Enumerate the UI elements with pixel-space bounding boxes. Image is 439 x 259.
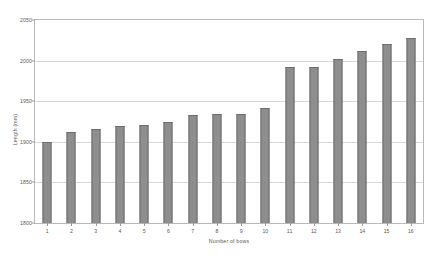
- bar-slot: [375, 20, 399, 223]
- y-tick-label: 1900: [20, 139, 32, 145]
- x-tick-label: 3: [94, 228, 97, 234]
- x-tick-mark: [47, 223, 48, 226]
- x-tick-mark: [144, 223, 145, 226]
- x-tick-label: 13: [335, 228, 341, 234]
- x-tick-label: 14: [359, 228, 365, 234]
- y-tick-label: 1800: [20, 220, 32, 226]
- bar-slot: [84, 20, 108, 223]
- x-tick-mark: [120, 223, 121, 226]
- x-tick-mark: [193, 223, 194, 226]
- bar: [285, 67, 294, 223]
- x-tick-label: 11: [287, 228, 293, 234]
- x-tick-mark: [71, 223, 72, 226]
- bar-slot: [253, 20, 277, 223]
- bar-slot: [350, 20, 374, 223]
- bar-slot: [35, 20, 59, 223]
- x-tick-label: 6: [167, 228, 170, 234]
- x-tick-mark: [387, 223, 388, 226]
- bar-slot: [59, 20, 83, 223]
- y-tick-label: 1950: [20, 98, 32, 104]
- y-tick-label: 2050: [20, 17, 32, 23]
- bar: [382, 44, 391, 223]
- bar: [334, 59, 343, 223]
- x-tick-mark: [411, 223, 412, 226]
- x-tick-label: 8: [215, 228, 218, 234]
- bar: [406, 38, 415, 223]
- x-tick-label: 7: [191, 228, 194, 234]
- x-tick-label: 2: [70, 228, 73, 234]
- bar: [43, 142, 52, 223]
- x-tick-mark: [96, 223, 97, 226]
- x-tick-label: 10: [262, 228, 268, 234]
- x-tick-label: 12: [311, 228, 317, 234]
- x-tick-mark: [241, 223, 242, 226]
- x-tick-mark: [217, 223, 218, 226]
- bar: [115, 126, 124, 223]
- x-tick-label: 16: [408, 228, 414, 234]
- bar: [67, 132, 76, 223]
- bar: [140, 125, 149, 223]
- x-tick-mark: [290, 223, 291, 226]
- bar: [212, 114, 221, 223]
- bar-series: [35, 20, 423, 223]
- x-tick-mark: [362, 223, 363, 226]
- bar: [237, 114, 246, 223]
- x-tick-label: 15: [384, 228, 390, 234]
- x-tick-mark: [314, 223, 315, 226]
- x-tick-mark: [338, 223, 339, 226]
- bar-slot: [132, 20, 156, 223]
- bar-slot: [108, 20, 132, 223]
- bar: [309, 67, 318, 223]
- x-tick-mark: [168, 223, 169, 226]
- bar-slot: [229, 20, 253, 223]
- x-tick-label: 1: [46, 228, 49, 234]
- x-tick-label: 9: [240, 228, 243, 234]
- x-axis-title: Number of bows: [34, 238, 424, 244]
- plot-area: 180018501900195020002050 123456789101112…: [34, 19, 424, 224]
- x-tick-label: 4: [118, 228, 121, 234]
- bar-chart-figure: Length (mm) 180018501900195020002050 123…: [0, 0, 439, 259]
- y-tick-label: 1850: [20, 179, 32, 185]
- bar-slot: [205, 20, 229, 223]
- bar: [164, 122, 173, 224]
- x-tick-mark: [265, 223, 266, 226]
- bar-slot: [399, 20, 423, 223]
- x-tick-label: 5: [143, 228, 146, 234]
- bar: [91, 129, 100, 223]
- bar-slot: [302, 20, 326, 223]
- bar: [358, 51, 367, 223]
- bar-slot: [278, 20, 302, 223]
- bar-slot: [326, 20, 350, 223]
- bar-slot: [181, 20, 205, 223]
- bar: [261, 108, 270, 223]
- y-tick-label: 2000: [20, 58, 32, 64]
- bar-slot: [156, 20, 180, 223]
- bar: [188, 115, 197, 223]
